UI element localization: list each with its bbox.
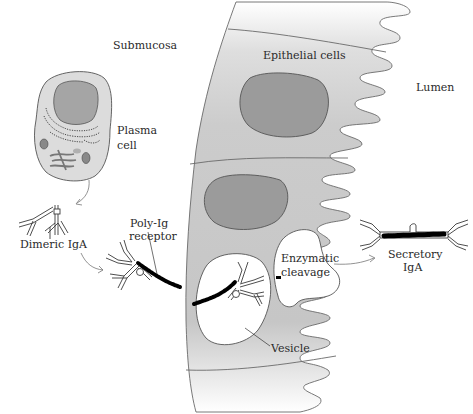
dimeric-iga-free	[19, 205, 68, 239]
secretory-component	[384, 234, 444, 236]
label-enzymatic-cleavage-2: cleavage	[281, 266, 330, 279]
secretory-iga	[360, 220, 468, 250]
label-secretory-iga-1: Secretory	[388, 248, 443, 261]
arrow-plasma-to-iga	[77, 180, 89, 203]
label-plasma-cell-2: cell	[117, 139, 137, 152]
plasma-cell-nucleus	[54, 81, 98, 125]
label-enzymatic-cleavage-1: Enzymatic	[281, 252, 339, 265]
arrow-iga-to-receptor	[81, 253, 103, 270]
label-submucosa: Submucosa	[113, 39, 178, 52]
epithelial-nucleus-lower	[204, 175, 287, 230]
label-lumen: Lumen	[416, 81, 454, 94]
poly-ig-receptor	[138, 263, 180, 287]
label-vesicle: Vesicle	[270, 342, 310, 355]
mitochondrion	[40, 139, 48, 149]
label-epithelial-cells: Epithelial cells	[263, 49, 346, 62]
vesicle-small	[73, 149, 81, 154]
label-plasma-cell-1: Plasma	[117, 124, 158, 137]
mitochondrion	[82, 153, 90, 164]
label-dimeric-iga: Dimeric IgA	[20, 238, 88, 251]
epithelial-nucleus-upper	[240, 73, 329, 137]
label-poly-ig-receptor-2: receptor	[129, 230, 178, 243]
arrow-cleavage-to-secretory	[334, 258, 374, 264]
label-poly-ig-receptor-1: Poly-Ig	[130, 217, 168, 230]
iga-transcytosis-diagram: Submucosa Epithelial cells Lumen Plasma …	[0, 0, 473, 414]
plasma-cell	[34, 72, 111, 181]
label-secretory-iga-2: IgA	[403, 261, 423, 274]
dimeric-iga-bound	[106, 240, 152, 290]
